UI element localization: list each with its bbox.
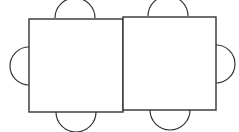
chair-right bbox=[216, 45, 235, 83]
chair-left bbox=[10, 47, 29, 85]
chair-top-right bbox=[148, 0, 188, 16]
chair-bottom-right bbox=[150, 110, 190, 130]
chair-top-left bbox=[55, 0, 95, 18]
table-seating-diagram bbox=[0, 0, 239, 132]
chair-bottom-left bbox=[56, 112, 96, 132]
left-table bbox=[29, 19, 123, 112]
right-table bbox=[123, 17, 216, 110]
